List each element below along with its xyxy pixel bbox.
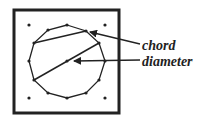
diameter-label: diameter: [142, 54, 193, 69]
peg: [27, 23, 30, 26]
chord-line: [34, 31, 86, 43]
peg: [27, 59, 30, 62]
chord-label: chord: [142, 38, 176, 53]
peg: [65, 23, 68, 26]
peg: [103, 96, 106, 99]
peg: [84, 91, 87, 94]
peg: [46, 28, 49, 31]
diameter-arrow-icon: [74, 60, 140, 61]
peg: [97, 78, 100, 81]
peg: [103, 23, 106, 26]
geoboard-diagram: chord diameter: [0, 0, 209, 117]
peg: [27, 96, 30, 99]
peg: [65, 96, 68, 99]
peg: [46, 91, 49, 94]
center-peg: [65, 59, 68, 62]
